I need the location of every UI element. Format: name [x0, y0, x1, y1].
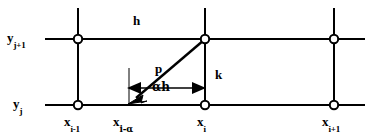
axis-label-x-i-minus-alpha: xi-α — [113, 115, 133, 132]
node-x-i-y-j — [201, 101, 209, 109]
arrowhead-alpha-h-right — [192, 82, 206, 94]
axis-label-x-i: xi — [197, 115, 206, 132]
node-x-i-minus-1-y-j — [74, 101, 82, 109]
node-x-i-plus-1-y-j — [330, 101, 338, 109]
axis-label-y-j: yj — [13, 97, 22, 114]
node-x-i-plus-1-y-j-plus-1 — [330, 35, 338, 43]
node-x-i-minus-1-y-j-plus-1 — [74, 35, 82, 43]
measure-label-h: h — [133, 14, 140, 27]
diagram-canvas — [0, 0, 373, 138]
measure-label-p: p — [155, 62, 162, 75]
axis-label-x-i-minus-1: xi-1 — [64, 115, 80, 132]
finite-difference-stencil-diagram: yj+1 yj xi-1 xi-α xi xi+1 h p k αh — [0, 0, 373, 138]
node-x-i-y-j-plus-1 — [201, 35, 209, 43]
measure-label-alpha-h: αh — [152, 81, 170, 93]
axis-label-x-i-plus-1: xi+1 — [322, 115, 340, 132]
axis-label-y-j-plus-1: yj+1 — [7, 31, 26, 48]
measure-label-k: k — [215, 68, 222, 81]
